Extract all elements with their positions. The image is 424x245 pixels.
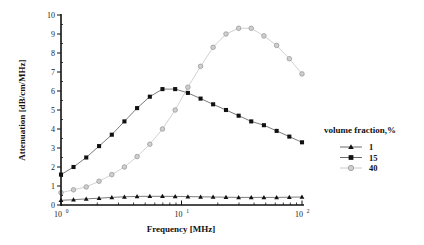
y-tick-label: 8	[51, 49, 55, 58]
y-tick-label: 7	[51, 68, 55, 77]
x-tick-exponent: 2	[307, 208, 310, 214]
y-tick-label: 9	[51, 30, 55, 39]
x-tick-label: 10	[54, 210, 62, 219]
x-tick-label: 10	[175, 210, 183, 219]
y-tick-label: 2	[51, 163, 55, 172]
legend-label: 40	[369, 163, 378, 173]
series-40	[59, 26, 305, 195]
y-tick-label: 1	[51, 182, 55, 191]
y-axis: 012345678910	[47, 11, 63, 210]
legend-item-15: 15	[340, 153, 378, 163]
plot-area	[59, 26, 305, 202]
attenuation-chart: 012345678910 100101102 Attenuation [dB/c…	[0, 0, 424, 245]
legend-item-40: 40	[340, 163, 378, 173]
series-15	[59, 87, 304, 177]
legend: volume fraction,% 11540	[324, 125, 396, 173]
x-tick-exponent: 0	[66, 208, 69, 214]
y-tick-label: 10	[47, 11, 55, 20]
x-tick-exponent: 1	[186, 208, 189, 214]
legend-title: volume fraction,%	[324, 125, 396, 135]
y-axis-title: Attenuation [dB/cm/MHz]	[17, 59, 27, 160]
y-tick-label: 3	[51, 144, 55, 153]
y-tick-label: 0	[51, 201, 55, 210]
legend-label: 15	[369, 153, 378, 163]
legend-label: 1	[369, 142, 373, 152]
y-tick-label: 4	[51, 125, 55, 134]
x-tick-label: 10	[295, 210, 303, 219]
x-axis: 100101102	[54, 201, 310, 220]
x-axis-title: Frequency [MHz]	[147, 224, 216, 234]
y-tick-label: 5	[51, 106, 55, 115]
y-tick-label: 6	[51, 87, 55, 96]
legend-item-1: 1	[340, 142, 373, 152]
